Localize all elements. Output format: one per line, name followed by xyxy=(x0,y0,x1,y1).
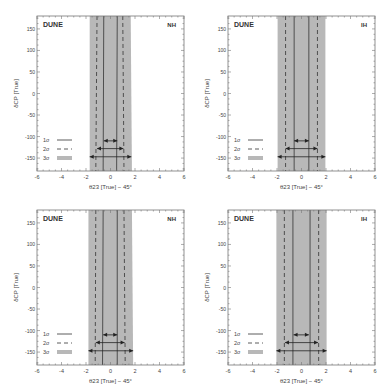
x-tick-label: 4 xyxy=(349,368,352,374)
y-tick-label: 50 xyxy=(29,263,35,269)
chart-panel-tr: Indistinguishable Regions-6-4-2024615010… xyxy=(191,0,382,193)
x-tick-label: -2 xyxy=(275,174,280,180)
x-tick-label: 2 xyxy=(133,368,136,374)
x-tick-label: -4 xyxy=(59,174,64,180)
legend-label: 2σ xyxy=(234,340,241,346)
x-tick-label: 6 xyxy=(182,368,185,374)
x-tick-label: 6 xyxy=(182,174,185,180)
legend-swatch-band xyxy=(57,350,72,354)
x-tick-label: 0 xyxy=(300,368,303,374)
legend-label: 3σ xyxy=(234,155,241,161)
legend-label: 2σ xyxy=(43,146,50,152)
experiment-label: DUNE xyxy=(43,215,63,222)
x-tick-label: 2 xyxy=(324,174,327,180)
x-tick-label: -2 xyxy=(275,368,280,374)
x-tick-label: -6 xyxy=(226,368,231,374)
legend-label: 1σ xyxy=(234,137,241,143)
y-tick-label: 100 xyxy=(27,47,36,53)
y-tick-label: 0 xyxy=(32,285,35,291)
x-axis-label: θ23 [True] − 45° xyxy=(280,378,324,384)
hierarchy-label: IH xyxy=(361,22,367,28)
y-axis-label: δCP [True] xyxy=(204,79,210,108)
x-tick-label: 6 xyxy=(373,368,376,374)
chart-panel-br: Indistinguishable Regions-6-4-2024615010… xyxy=(191,194,382,387)
experiment-label: DUNE xyxy=(234,215,254,222)
x-tick-label: 6 xyxy=(373,174,376,180)
y-tick-label: 100 xyxy=(27,241,36,247)
y-tick-label: 50 xyxy=(29,69,35,75)
y-tick-label: -150 xyxy=(216,155,226,161)
y-tick-label: 150 xyxy=(27,220,36,226)
x-tick-label: -6 xyxy=(35,174,40,180)
x-tick-label: -4 xyxy=(250,174,255,180)
experiment-label: DUNE xyxy=(234,21,254,28)
x-axis-label: θ23 [True] − 45° xyxy=(280,184,324,190)
x-tick-label: -6 xyxy=(226,174,231,180)
y-tick-label: -100 xyxy=(25,134,35,140)
y-axis-label: δCP [True] xyxy=(204,273,210,302)
hierarchy-label: NH xyxy=(167,216,176,222)
y-tick-label: 100 xyxy=(218,47,227,53)
legend-label: 1σ xyxy=(234,331,241,337)
legend-label: 2σ xyxy=(234,146,241,152)
legend-label: 3σ xyxy=(234,349,241,355)
legend-label: 3σ xyxy=(43,155,50,161)
y-tick-label: 50 xyxy=(220,69,226,75)
y-tick-label: 150 xyxy=(218,220,227,226)
y-axis-label: δCP [True] xyxy=(13,273,19,302)
y-tick-label: -50 xyxy=(28,306,35,312)
y-tick-label: -150 xyxy=(25,155,35,161)
legend-swatch-band xyxy=(57,156,72,160)
band-3sigma xyxy=(276,210,326,365)
y-tick-label: -150 xyxy=(25,349,35,355)
y-tick-label: 0 xyxy=(223,285,226,291)
x-tick-label: 4 xyxy=(158,368,161,374)
x-tick-label: -2 xyxy=(84,174,89,180)
chart-panel-bl: Indistinguishable Regions-6-4-2024615010… xyxy=(0,194,191,387)
legend-label: 3σ xyxy=(43,349,50,355)
y-tick-label: 100 xyxy=(218,241,227,247)
legend-label: 2σ xyxy=(43,340,50,346)
x-tick-label: 4 xyxy=(349,174,352,180)
legend-label: 1σ xyxy=(43,331,50,337)
y-tick-label: -100 xyxy=(216,328,226,334)
legend-swatch-band xyxy=(248,156,263,160)
hierarchy-label: IH xyxy=(361,216,367,222)
x-tick-label: -4 xyxy=(250,368,255,374)
band-3sigma xyxy=(278,16,326,171)
x-tick-label: 4 xyxy=(158,174,161,180)
x-axis-label: θ23 [True] − 45° xyxy=(89,184,133,190)
y-tick-label: -100 xyxy=(216,134,226,140)
chart-panel-tl: Indistinguishable Regions-6-4-2024615010… xyxy=(0,0,191,193)
y-tick-label: 50 xyxy=(220,263,226,269)
y-tick-label: 0 xyxy=(32,91,35,97)
x-tick-label: -6 xyxy=(35,368,40,374)
x-tick-label: -4 xyxy=(59,368,64,374)
x-tick-label: 0 xyxy=(109,368,112,374)
x-axis-label: θ23 [True] − 45° xyxy=(89,378,133,384)
y-tick-label: -50 xyxy=(219,112,226,118)
legend-swatch-band xyxy=(248,350,263,354)
y-tick-label: -100 xyxy=(25,328,35,334)
y-tick-label: 150 xyxy=(218,26,227,32)
y-tick-label: 0 xyxy=(223,91,226,97)
experiment-label: DUNE xyxy=(43,21,63,28)
y-axis-label: δCP [True] xyxy=(13,79,19,108)
hierarchy-label: NH xyxy=(167,22,176,28)
x-tick-label: 0 xyxy=(300,174,303,180)
x-tick-label: 2 xyxy=(324,368,327,374)
legend-label: 1σ xyxy=(43,137,50,143)
y-tick-label: -50 xyxy=(28,112,35,118)
x-tick-label: -2 xyxy=(84,368,89,374)
x-tick-label: 0 xyxy=(109,174,112,180)
x-tick-label: 2 xyxy=(133,174,136,180)
y-tick-label: -50 xyxy=(219,306,226,312)
y-tick-label: 150 xyxy=(27,26,36,32)
y-tick-label: -150 xyxy=(216,349,226,355)
